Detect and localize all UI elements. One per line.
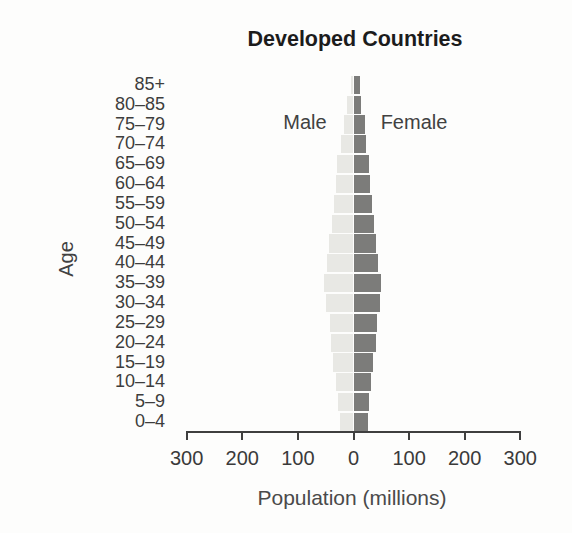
x-tick-label-1: 200 <box>226 447 259 470</box>
bar-female-0–4 <box>354 413 368 431</box>
bar-male-5–9 <box>338 393 353 411</box>
bar-male-45–49 <box>329 234 353 252</box>
bar-female-55–59 <box>354 195 372 213</box>
x-tick-6 <box>519 431 521 440</box>
bar-female-30–34 <box>354 294 380 312</box>
bar-female-50–54 <box>354 215 373 233</box>
female-series-label: Female <box>381 111 448 134</box>
bar-male-35–39 <box>324 274 353 292</box>
bar-female-5–9 <box>354 393 368 411</box>
x-tick-1 <box>241 431 243 440</box>
bar-male-30–34 <box>326 294 353 312</box>
bar-female-20–24 <box>354 334 376 352</box>
bar-male-65–69 <box>337 155 353 173</box>
x-tick-label-2: 100 <box>281 447 314 470</box>
bar-female-25–29 <box>354 314 377 332</box>
bar-male-15–19 <box>333 353 353 371</box>
bar-female-85+ <box>354 76 360 94</box>
x-tick-label-4: 100 <box>392 447 425 470</box>
x-tick-4 <box>408 431 410 440</box>
bar-female-40–44 <box>354 254 378 272</box>
bar-male-20–24 <box>331 334 353 352</box>
bar-female-65–69 <box>354 155 368 173</box>
bar-male-75–79 <box>344 115 353 133</box>
bar-male-60–64 <box>336 175 353 193</box>
x-tick-label-0: 300 <box>170 447 203 470</box>
bar-male-70–74 <box>341 135 353 153</box>
male-series-label: Male <box>283 111 326 134</box>
bar-male-50–54 <box>332 215 353 233</box>
x-tick-5 <box>464 431 466 440</box>
x-tick-label-3: 0 <box>348 447 359 470</box>
bar-male-55–59 <box>334 195 353 213</box>
bar-male-10–14 <box>336 373 353 391</box>
bar-male-85+ <box>351 76 353 94</box>
bar-male-25–29 <box>330 314 353 332</box>
bar-male-0–4 <box>340 413 353 431</box>
bar-female-70–74 <box>354 135 366 153</box>
bar-female-80–85 <box>354 96 361 114</box>
bar-male-80–85 <box>347 96 353 114</box>
x-tick-label-5: 200 <box>448 447 481 470</box>
x-tick-label-6: 300 <box>504 447 537 470</box>
bar-female-15–19 <box>354 353 373 371</box>
bar-female-45–49 <box>354 234 376 252</box>
bar-female-10–14 <box>354 373 371 391</box>
x-axis-title: Population (millions) <box>257 486 446 510</box>
x-tick-2 <box>297 431 299 440</box>
population-pyramid-figure: Developed Countries Age 85+80–8575–7970–… <box>0 0 572 533</box>
x-tick-3 <box>353 431 355 440</box>
bar-female-35–39 <box>354 274 381 292</box>
bar-female-75–79 <box>354 115 365 133</box>
bar-male-40–44 <box>327 254 353 272</box>
x-tick-0 <box>186 431 188 440</box>
bar-female-60–64 <box>354 175 370 193</box>
